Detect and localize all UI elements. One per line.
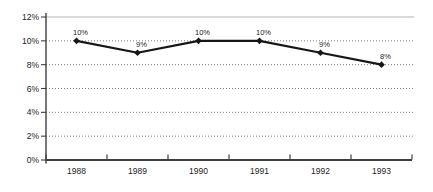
data-point-label: 9% — [136, 40, 147, 49]
x-axis-tick-label: 1993 — [372, 166, 391, 176]
data-point-label: 10% — [256, 28, 271, 37]
series-line — [77, 41, 382, 65]
data-point-marker — [195, 38, 202, 45]
data-point-label: 8% — [380, 52, 391, 61]
y-axis-tick-label: 8% — [27, 60, 40, 70]
y-axis-tick-label: 0% — [27, 155, 40, 165]
data-point-marker — [256, 38, 263, 45]
y-axis-tick-label: 2% — [27, 131, 40, 141]
data-point-label: 10% — [73, 28, 88, 37]
data-point-marker — [317, 49, 324, 56]
y-axis-tick-label: 10% — [22, 36, 39, 46]
x-axis-tick-label: 1991 — [250, 166, 269, 176]
data-point-marker — [378, 61, 385, 68]
x-axis-tick-label: 1992 — [311, 166, 330, 176]
x-axis-tick-label: 1988 — [67, 166, 86, 176]
y-axis-tick-label: 6% — [27, 84, 40, 94]
data-point-marker — [73, 38, 80, 45]
line-chart: 0%2%4%6%8%10%12%198819891990199119921993… — [0, 0, 433, 192]
data-point-label: 9% — [319, 40, 330, 49]
x-axis-tick-label: 1989 — [128, 166, 147, 176]
y-axis-tick-label: 4% — [27, 107, 40, 117]
line-chart-container: 0%2%4%6%8%10%12%198819891990199119921993… — [0, 0, 433, 192]
y-axis-tick-label: 12% — [22, 12, 39, 22]
data-point-label: 10% — [195, 28, 210, 37]
x-axis-tick-label: 1990 — [189, 166, 208, 176]
data-point-marker — [134, 49, 141, 56]
